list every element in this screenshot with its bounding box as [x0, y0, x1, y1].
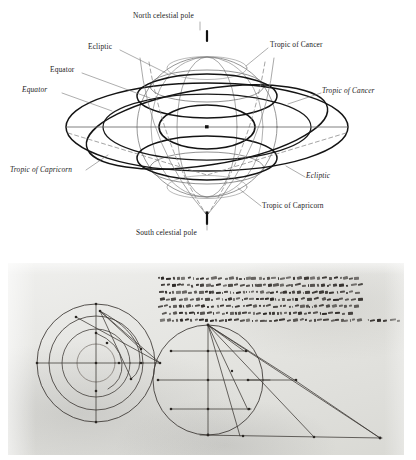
sphere-centre-point	[205, 125, 209, 128]
manuscript-text-block	[156, 277, 368, 323]
label-equator-roman: Equator	[50, 65, 74, 74]
label-tropic-capricorn-roman: Tropic of Capricorn	[262, 201, 324, 210]
manuscript-folio-panel	[8, 263, 404, 455]
manuscript-marginal-note	[368, 319, 402, 322]
left-chord-4	[100, 311, 160, 363]
right-diagram-group	[153, 324, 382, 440]
leader-equator-italic	[62, 93, 112, 111]
figure-root: North celestial pole Ecliptic Equator Eq…	[0, 0, 416, 460]
label-ecliptic-lower: Ecliptic	[306, 171, 330, 180]
text-line	[158, 277, 364, 280]
left-arc-construction-1	[100, 311, 140, 379]
celestial-sphere-drawing	[0, 0, 416, 258]
tropic-cancer-circle	[150, 70, 264, 102]
text-line	[162, 312, 358, 315]
south-pole-point	[206, 211, 209, 214]
celestial-sphere-panel: North celestial pole Ecliptic Equator Eq…	[0, 0, 416, 258]
label-equator-italic: Equator	[22, 85, 47, 94]
text-line	[161, 284, 363, 287]
label-south-celestial-pole: South celestial pole	[136, 228, 197, 237]
tropic-cancer-ring-heavy	[137, 74, 277, 118]
label-tropic-cancer-roman: Tropic of Cancer	[270, 40, 323, 49]
text-line	[158, 305, 359, 308]
tropic-capricorn-ring-heavy	[137, 136, 277, 180]
label-tropic-cancer-italic: Tropic of Cancer	[322, 86, 375, 95]
right-ray-6	[208, 325, 380, 438]
dashed-chord-right	[207, 133, 346, 175]
leader-equator-roman	[82, 73, 150, 98]
text-line	[159, 291, 364, 294]
label-north-celestial-pole: North celestial pole	[133, 11, 194, 20]
left-diagram-group	[36, 303, 162, 424]
right-baseline	[200, 435, 382, 438]
leader-capricorn-roman	[238, 188, 261, 206]
text-line	[160, 319, 368, 322]
right-point-markers	[157, 324, 382, 440]
leader-ecliptic-upper	[120, 50, 168, 74]
right-ray-7	[296, 381, 380, 438]
label-ecliptic-upper: Ecliptic	[88, 42, 112, 51]
leader-ecliptic-lower	[286, 166, 305, 177]
label-tropic-capricorn-italic: Tropic of Capricorn	[10, 165, 72, 174]
left-arc-construction-2	[96, 333, 122, 389]
left-chord-1	[76, 317, 160, 363]
text-line	[160, 298, 363, 301]
tropic-capricorn-circle	[150, 152, 264, 184]
